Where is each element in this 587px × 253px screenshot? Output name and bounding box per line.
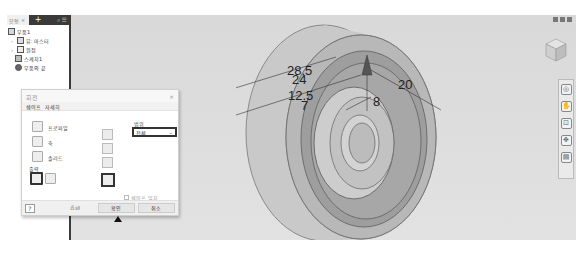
inventor-window: 모형 × + ⌕ ☰ 부품1 › 뷰: 마스터 › 원점 스 <box>7 15 576 240</box>
revolved-part-model[interactable] <box>236 15 496 240</box>
dimension-24[interactable]: 24 <box>292 73 306 86</box>
tab-more[interactable]: 자세히 <box>45 103 60 109</box>
tab-shape[interactable]: 쉐이프 <box>26 103 41 109</box>
tree-item-end-of-part[interactable]: 부품의 끝 <box>8 63 68 72</box>
output-solid-icon[interactable] <box>30 172 43 185</box>
tab-model-label: 모형 <box>9 17 19 24</box>
output-label: 출력 <box>29 165 39 172</box>
tree-item-origin[interactable]: › 원점 <box>8 45 68 54</box>
part-icon <box>8 28 15 35</box>
viewcube[interactable] <box>544 37 568 63</box>
profile-label: 프로파일 <box>48 124 68 131</box>
restore-icon[interactable] <box>560 17 565 22</box>
browser-search-menu[interactable]: ⌕ ☰ <box>47 15 69 25</box>
expand-arrow-icon[interactable]: › <box>11 38 15 44</box>
dialog-title-bar[interactable]: 회전 × <box>22 90 178 102</box>
extents-value: 전체 <box>136 129 146 136</box>
tree-item-label: 뷰: 마스터 <box>26 37 49 44</box>
axis-label: 축 <box>48 139 53 146</box>
extents-dropdown[interactable]: 전체 ⌄ <box>132 127 177 137</box>
plus-icon: + <box>35 15 42 24</box>
close-window-icon[interactable] <box>567 17 572 22</box>
add-browser-button[interactable]: + <box>29 15 47 25</box>
orbit-icon[interactable]: ✥ <box>561 135 572 146</box>
dimension-7[interactable]: 7 <box>301 99 308 112</box>
tree-item-label: 원점 <box>26 46 36 53</box>
end-of-part-icon <box>15 64 22 71</box>
tree-item-part1[interactable]: 부품1 <box>8 27 68 36</box>
pan-icon[interactable]: ✋ <box>561 101 572 112</box>
extents-label: 범위 <box>134 120 144 127</box>
close-icon[interactable]: × <box>169 93 174 99</box>
expand-arrow-icon[interactable]: › <box>11 47 15 53</box>
tree-item-sketch1[interactable]: 스케치1 <box>8 54 68 63</box>
tree-item-label: 부품의 끝 <box>24 64 46 71</box>
help-icon[interactable]: ? <box>25 204 35 213</box>
tree-item-label: 스케치1 <box>24 55 42 62</box>
cancel-button[interactable]: 취소 <box>138 203 175 213</box>
new-solid-operation-icon[interactable] <box>101 173 115 187</box>
dimension-8[interactable]: 8 <box>373 95 380 108</box>
output-surface-icon[interactable] <box>45 173 56 184</box>
revolve-dialog: 회전 × 쉐이프 자세히 프로파일 축 솔리드 출력 범위 전체 ⌄ <box>21 89 179 216</box>
window-controls <box>553 17 572 22</box>
search-menu-icon: ⌕ ☰ <box>57 16 67 23</box>
dimension-20[interactable]: 20 <box>398 78 412 91</box>
cut-operation-icon[interactable] <box>102 143 113 154</box>
chevron-down-icon: ⌄ <box>169 129 173 135</box>
zoom-icon[interactable]: ⊡ <box>561 118 572 129</box>
steering-wheel-icon[interactable]: ◎ <box>561 84 572 95</box>
origin-folder-icon <box>17 46 24 53</box>
sketch-icon <box>15 55 22 62</box>
dialog-tabs: 쉐이프 자세히 <box>22 102 178 111</box>
tab-model[interactable]: 모형 × <box>7 17 27 24</box>
expression-button[interactable]: δ𝑥∂ <box>56 204 95 212</box>
dialog-title: 회전 <box>26 93 38 99</box>
dialog-collapse-arrow-icon[interactable] <box>114 216 122 222</box>
dialog-body: 프로파일 축 솔리드 출력 범위 전체 ⌄ 쉐이프 일치 <box>22 111 178 201</box>
view-icon <box>17 37 24 44</box>
intersect-operation-icon[interactable] <box>102 157 113 168</box>
close-icon[interactable]: × <box>21 17 25 23</box>
minimize-icon[interactable] <box>553 17 558 22</box>
dialog-footer: ? δ𝑥∂ 확인 취소 <box>22 200 178 215</box>
look-at-icon[interactable]: ▤ <box>561 152 572 163</box>
model-tree: 부품1 › 뷰: 마스터 › 원점 스케치1 부품의 끝 <box>7 25 69 74</box>
ok-button[interactable]: 확인 <box>98 203 135 213</box>
browser-tab-bar: 모형 × + ⌕ ☰ <box>7 15 69 25</box>
tree-item-label: 부품1 <box>17 28 30 35</box>
navigation-bar: ◎ ✋ ⊡ ✥ ▤ <box>558 79 574 179</box>
join-operation-icon[interactable] <box>102 129 113 140</box>
solid-label: 솔리드 <box>48 154 63 161</box>
profile-selector-icon[interactable] <box>32 121 43 132</box>
axis-selector-icon[interactable] <box>32 136 43 147</box>
tree-item-view-master[interactable]: › 뷰: 마스터 <box>8 36 68 45</box>
solid-selector-icon[interactable] <box>32 151 43 162</box>
